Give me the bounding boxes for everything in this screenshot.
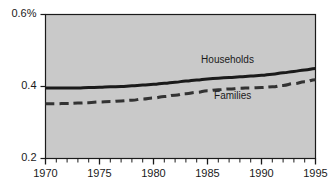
x-axis-label-1985: 1985 <box>192 167 224 179</box>
y-axis-label-2: 0.6% <box>0 7 37 19</box>
x-axis-label-1970: 1970 <box>30 167 62 179</box>
x-axis-label-1995: 1995 <box>300 167 332 179</box>
y-axis-label-0: 0.2 <box>0 151 37 163</box>
x-axis-label-1975: 1975 <box>84 167 116 179</box>
series-annotation-households: Households <box>201 54 254 65</box>
x-axis-label-1990: 1990 <box>246 167 278 179</box>
chart-container: 0.20.40.6%197019751980198519901995Househ… <box>0 0 335 194</box>
series-annotation-families: Families <box>214 90 251 101</box>
x-axis-label-1980: 1980 <box>138 167 170 179</box>
y-axis-label-1: 0.4 <box>0 79 37 91</box>
line-chart-canvas <box>0 0 335 194</box>
